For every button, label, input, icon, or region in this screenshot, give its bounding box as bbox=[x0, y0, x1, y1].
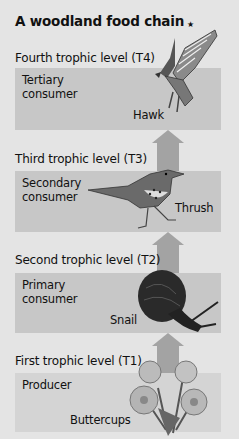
role-label: Producer bbox=[22, 378, 71, 392]
level-label-t1: First trophic level (T1) bbox=[15, 354, 142, 368]
role-label: Primary consumer bbox=[22, 278, 102, 306]
thrush-icon bbox=[88, 160, 188, 230]
hawk-icon bbox=[145, 28, 225, 118]
buttercups-icon bbox=[128, 358, 213, 438]
diagram-title: A woodland food chain bbox=[15, 13, 184, 29]
organism-label: Buttercups bbox=[70, 413, 131, 427]
snail-icon bbox=[132, 268, 222, 338]
level-label-t2: Second trophic level (T2) bbox=[15, 253, 160, 267]
level-label-t4: Fourth trophic level (T4) bbox=[15, 51, 155, 65]
role-label: Tertiary consumer bbox=[22, 73, 102, 101]
